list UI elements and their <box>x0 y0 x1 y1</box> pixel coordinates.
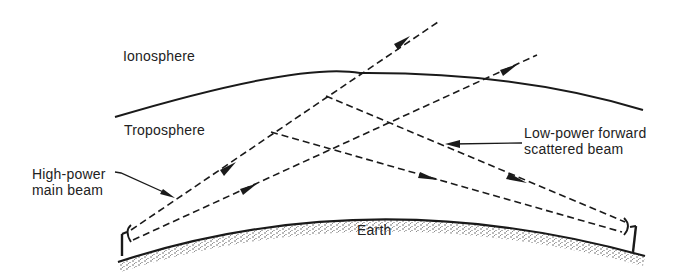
scatter-beam-upper <box>326 96 625 222</box>
scatter-beam-label: Low-power forward scattered beam <box>524 125 646 157</box>
main-beam-label-line2: main beam <box>32 182 106 198</box>
receive-antenna-icon <box>624 218 636 252</box>
main-beam-label: High-power main beam <box>32 166 106 198</box>
arrow-head-icon <box>160 189 175 198</box>
scatter-beam-label-line1: Low-power forward <box>524 125 646 141</box>
transmit-antenna-icon <box>122 225 131 256</box>
arrow-head-icon <box>220 162 236 176</box>
scatter-beam-leader <box>445 140 522 148</box>
arrow-head-icon <box>418 172 438 180</box>
troposphere-label: Troposphere <box>124 122 205 138</box>
main-beam-leader <box>115 172 175 198</box>
arrow-head-icon <box>445 140 460 148</box>
arrow-head-icon <box>506 173 527 183</box>
arrow-head-icon <box>240 183 258 195</box>
ionosphere-label: Ionosphere <box>123 48 195 64</box>
scatter-beam-label-line2: scattered beam <box>524 141 646 157</box>
earth-label: Earth <box>357 222 391 238</box>
main-beam-lower <box>133 55 537 240</box>
arrow-head-icon <box>500 64 518 76</box>
main-beam-label-line1: High-power <box>32 166 106 182</box>
troposphere-boundary <box>115 71 643 117</box>
